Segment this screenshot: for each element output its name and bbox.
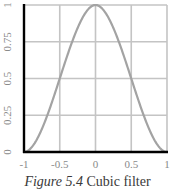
- x-tick-label: 1: [164, 158, 170, 170]
- x-tick-label: 0: [93, 158, 99, 170]
- y-tick-label: 0.75: [1, 32, 13, 52]
- cubic-filter-chart: 00.250.50.751 -1-0.500.51: [0, 0, 175, 192]
- grid-lines: [24, 5, 167, 152]
- y-tick-label: 0.5: [1, 71, 13, 85]
- x-tick-label: -1: [19, 158, 28, 170]
- y-tick-label: 1: [1, 2, 13, 8]
- x-axis-tick-labels: -1-0.500.51: [19, 158, 169, 170]
- figure-caption: Figure 5.4 Cubic filter: [0, 174, 175, 190]
- y-tick-label: 0.25: [1, 105, 13, 125]
- figure-number: Figure 5.4: [24, 174, 83, 189]
- y-axis-tick-labels: 00.250.50.751: [1, 2, 13, 155]
- x-tick-label: -0.5: [51, 158, 69, 170]
- figure-title: Cubic filter: [86, 174, 150, 189]
- x-tick-label: 0.5: [124, 158, 138, 170]
- y-tick-label: 0: [1, 149, 13, 155]
